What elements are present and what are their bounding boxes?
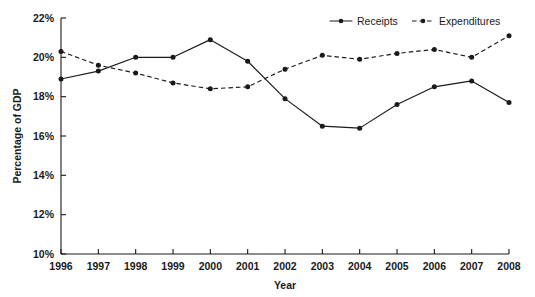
- data-point-receipts-2002[interactable]: [283, 96, 288, 101]
- data-point-receipts-2006[interactable]: [432, 84, 437, 89]
- y-tick-label: 16%: [33, 130, 55, 142]
- data-point-expenditures-2001[interactable]: [245, 84, 250, 89]
- data-point-receipts-1997[interactable]: [96, 69, 101, 74]
- x-tick-label: 1998: [124, 260, 148, 272]
- data-point-receipts-1998[interactable]: [133, 55, 138, 60]
- series-line-receipts: [61, 40, 509, 129]
- data-point-receipts-1996[interactable]: [59, 76, 64, 81]
- x-tick-label: 1997: [87, 260, 111, 272]
- legend-item-receipts[interactable]: Receipts: [330, 15, 398, 27]
- data-point-expenditures-1997[interactable]: [96, 63, 101, 68]
- data-point-receipts-1999[interactable]: [171, 55, 176, 60]
- y-axis-title: Percentage of GDP: [11, 88, 23, 183]
- legend-swatch-expenditures-marker: [421, 19, 426, 24]
- y-tick-label: 22%: [33, 12, 55, 24]
- x-tick-label: 2008: [497, 260, 521, 272]
- series-line-expenditures: [61, 36, 509, 89]
- x-tick-label: 2007: [460, 260, 484, 272]
- legend-label-receipts: Receipts: [357, 15, 398, 27]
- data-point-receipts-2007[interactable]: [469, 78, 474, 83]
- data-point-expenditures-2005[interactable]: [395, 51, 400, 56]
- data-point-expenditures-2000[interactable]: [208, 86, 213, 91]
- data-point-receipts-2004[interactable]: [357, 126, 362, 131]
- legend-swatch-receipts-marker: [339, 19, 344, 24]
- y-tick-label: 20%: [33, 51, 55, 63]
- legend-label-expenditures: Expenditures: [439, 15, 500, 27]
- data-point-expenditures-2004[interactable]: [357, 57, 362, 62]
- data-point-expenditures-2002[interactable]: [283, 67, 288, 72]
- series-lines-group: [61, 36, 509, 128]
- y-tick-label: 10%: [33, 248, 55, 260]
- data-point-receipts-2008[interactable]: [507, 100, 512, 105]
- data-point-receipts-2000[interactable]: [208, 37, 213, 42]
- line-chart-svg: 22%20%18%16%14%12%10% 199619971998199920…: [0, 0, 535, 297]
- chart-container: 22%20%18%16%14%12%10% 199619971998199920…: [0, 0, 535, 297]
- y-tick-label: 18%: [33, 90, 55, 102]
- data-point-receipts-2001[interactable]: [245, 59, 250, 64]
- data-point-expenditures-2003[interactable]: [320, 53, 325, 58]
- x-tick-label: 2002: [273, 260, 297, 272]
- x-axis-tick-labels: 1996199719981999200020012002200320042005…: [49, 260, 521, 272]
- x-tick-label: 2003: [311, 260, 335, 272]
- chart-legend: Receipts Expenditures: [330, 15, 500, 27]
- x-axis-ticks: [61, 249, 509, 254]
- y-tick-label: 12%: [33, 208, 55, 220]
- data-point-receipts-2005[interactable]: [395, 102, 400, 107]
- data-point-expenditures-1996[interactable]: [59, 49, 64, 54]
- series-markers-group: [59, 33, 512, 130]
- data-point-expenditures-2006[interactable]: [432, 47, 437, 52]
- x-tick-label: 2001: [236, 260, 260, 272]
- legend-item-expenditures[interactable]: Expenditures: [412, 15, 500, 27]
- x-tick-label: 2006: [423, 260, 447, 272]
- x-tick-label: 1999: [161, 260, 185, 272]
- x-axis-title: Year: [274, 279, 296, 291]
- x-tick-label: 2004: [348, 260, 372, 272]
- data-point-expenditures-2008[interactable]: [507, 33, 512, 38]
- data-point-receipts-2003[interactable]: [320, 124, 325, 129]
- y-tick-label: 14%: [33, 169, 55, 181]
- data-point-expenditures-1999[interactable]: [171, 80, 176, 85]
- x-tick-label: 2000: [199, 260, 223, 272]
- x-tick-label: 1996: [49, 260, 73, 272]
- x-tick-label: 2005: [385, 260, 409, 272]
- y-axis-tick-labels: 22%20%18%16%14%12%10%: [33, 12, 55, 260]
- data-point-expenditures-1998[interactable]: [133, 71, 138, 76]
- data-point-expenditures-2007[interactable]: [469, 55, 474, 60]
